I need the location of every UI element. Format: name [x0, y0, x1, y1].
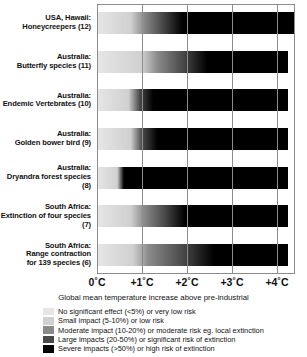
x-axis: 0˚C+1˚C+2˚C+3˚C+4˚C [97, 276, 295, 292]
severity-gradient-bar [97, 12, 295, 34]
row-label: Australia:Butterfly species (11) [0, 53, 95, 71]
legend-item: Moderate impact (10-20%) or moderate ris… [43, 326, 293, 335]
x-axis-title: Global mean temperature increase above p… [0, 293, 307, 302]
x-axis-tick: +3˚C [220, 276, 243, 288]
chart-row: South Africa:Extinction of four species … [0, 205, 307, 227]
legend-label: Severe impacts (>50%) or high risk of ex… [58, 344, 215, 353]
row-track [95, 12, 307, 34]
chart-row: Australia:Dryandra forest species (8) [0, 167, 307, 189]
legend-swatch [43, 336, 54, 344]
row-label: Australia:Dryandra forest species (8) [0, 164, 95, 190]
row-track [95, 205, 307, 227]
chart-row: Australia:Endemic Vertebrates (10) [0, 89, 307, 111]
x-axis-tick: 0˚C [89, 276, 106, 288]
row-track [95, 89, 307, 111]
row-label: Australia:Endemic Vertebrates (10) [0, 92, 95, 110]
row-label: Australia:Golden bower bird (9) [0, 130, 95, 148]
x-axis-tick: +4˚C [265, 276, 288, 288]
severity-gradient-bar [97, 128, 288, 150]
row-track [95, 167, 307, 189]
legend-swatch [43, 308, 54, 316]
row-label: South Africa:Range contractionfor 139 sp… [0, 242, 95, 268]
row-track [95, 51, 307, 73]
x-axis-tick: +2˚C [175, 276, 198, 288]
row-label-line: Extinction of four species (7) [0, 212, 91, 230]
legend-label: Large impacts (20-50%) or significant ri… [58, 335, 235, 344]
legend: No significant effect (<5%) or very low … [43, 307, 293, 353]
severity-gradient-bar [97, 51, 288, 73]
legend-item: Large impacts (20-50%) or significant ri… [43, 335, 293, 344]
legend-label: Small impact (5-10%) or low risk [58, 316, 164, 325]
chart-row: Australia:Golden bower bird (9) [0, 128, 307, 150]
plot-area: USA, Hawaii:Honeycreepers (12)Australia:… [0, 0, 307, 278]
legend-swatch [43, 326, 54, 334]
legend-item: No significant effect (<5%) or very low … [43, 307, 293, 316]
legend-swatch [43, 345, 54, 353]
row-label-line: Endemic Vertebrates (10) [0, 100, 91, 109]
legend-item: Severe impacts (>50%) or high risk of ex… [43, 344, 293, 353]
chart-row: USA, Hawaii:Honeycreepers (12) [0, 12, 307, 34]
severity-gradient-bar [97, 89, 288, 111]
row-label-line: Honeycreepers (12) [0, 23, 91, 32]
chart-row: Australia:Butterfly species (11) [0, 51, 307, 73]
row-label-line: Golden bower bird (9) [0, 139, 91, 148]
severity-gradient-bar [97, 244, 288, 266]
severity-gradient-bar [97, 205, 288, 227]
row-label-line: for 139 species (6) [0, 259, 91, 268]
legend-item: Small impact (5-10%) or low risk [43, 316, 293, 325]
severity-gradient-bar [97, 167, 288, 189]
legend-label: No significant effect (<5%) or very low … [58, 307, 196, 316]
row-track [95, 128, 307, 150]
row-label-line: Butterfly species (11) [0, 62, 91, 71]
row-track [95, 244, 307, 266]
row-label: USA, Hawaii:Honeycreepers (12) [0, 14, 95, 32]
row-label: South Africa:Extinction of four species … [0, 203, 95, 229]
chart-row: South Africa:Range contractionfor 139 sp… [0, 244, 307, 266]
legend-swatch [43, 317, 54, 325]
x-axis-tick: +1˚C [130, 276, 153, 288]
climate-impact-chart: USA, Hawaii:Honeycreepers (12)Australia:… [0, 0, 307, 357]
row-label-line: Dryandra forest species (8) [0, 173, 91, 191]
legend-label: Moderate impact (10-20%) or moderate ris… [58, 326, 264, 335]
